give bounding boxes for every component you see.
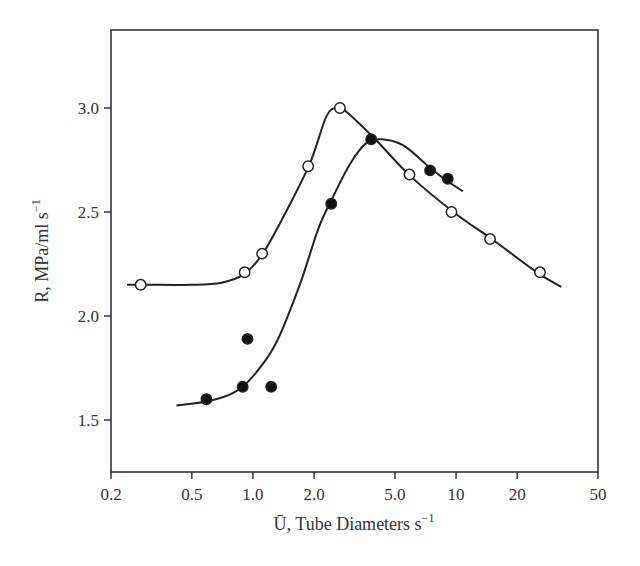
fit-curve-filled — [176, 139, 462, 405]
x-tick-label: 20 — [509, 485, 526, 504]
x-tick-label: 50 — [590, 485, 607, 504]
open-circle-marker — [303, 161, 313, 171]
filled-circle-marker — [266, 382, 276, 392]
open-circle-marker — [257, 248, 267, 258]
fitted-curves — [127, 108, 561, 406]
x-tick-label: 0.2 — [100, 485, 121, 504]
y-tick-label: 1.5 — [78, 411, 99, 430]
x-tick-label: 5.0 — [384, 485, 405, 504]
x-tick-label: 1.0 — [242, 485, 263, 504]
plot-frame — [111, 30, 598, 472]
open-circle-marker — [485, 234, 495, 244]
data-points — [135, 103, 545, 405]
x-tick-label: 0.5 — [181, 485, 202, 504]
open-circle-marker — [446, 207, 456, 217]
filled-circle-marker — [443, 174, 453, 184]
filled-circle-marker — [425, 165, 435, 175]
filled-circle-marker — [366, 134, 376, 144]
open-circle-marker — [535, 267, 545, 277]
y-tick-label: 2.5 — [78, 203, 99, 222]
filled-circle-marker — [237, 382, 247, 392]
open-circle-marker — [135, 280, 145, 290]
y-tick-label: 2.0 — [78, 307, 99, 326]
x-axis-ticks: 0.20.51.02.05.0102050 — [100, 472, 606, 504]
x-axis-title: Ū, Tube Diameters s−1 — [274, 511, 435, 534]
chart: 0.20.51.02.05.0102050 1.52.02.53.0 Ū, Tu… — [0, 0, 640, 566]
x-tick-label: 10 — [448, 485, 465, 504]
y-axis-ticks: 1.52.02.53.0 — [78, 99, 111, 430]
open-circle-marker — [239, 267, 249, 277]
open-circle-marker — [335, 103, 345, 113]
fit-curve-open — [127, 108, 561, 287]
open-circle-marker — [404, 169, 414, 179]
y-tick-label: 3.0 — [78, 99, 99, 118]
filled-circle-marker — [242, 334, 252, 344]
x-tick-label: 2.0 — [303, 485, 324, 504]
y-axis-title: R, MPa/ml s−1 — [29, 199, 52, 302]
filled-circle-marker — [201, 394, 211, 404]
filled-circle-marker — [326, 198, 336, 208]
